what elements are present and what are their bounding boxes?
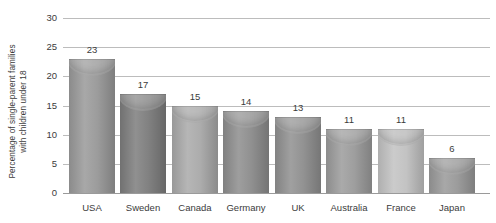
bar-top-edge [172, 106, 218, 107]
bar-group: 23USA [69, 18, 115, 193]
bar[interactable] [69, 59, 115, 193]
bar-top-edge [69, 59, 115, 60]
bar-value-label: 17 [120, 80, 166, 90]
bar-value-label: 11 [378, 115, 424, 125]
bar-group: 11Australia [326, 18, 372, 193]
bar[interactable] [378, 129, 424, 193]
bar-value-label: 23 [69, 45, 115, 55]
bar-top-edge [378, 129, 424, 130]
axis-baseline [63, 193, 490, 194]
y-axis-tick-label: 15 [5, 101, 57, 111]
y-axis-tick-label: 25 [5, 42, 57, 52]
bar-value-label: 6 [429, 144, 475, 154]
bar[interactable] [429, 158, 475, 193]
bar-top-edge [275, 117, 321, 118]
x-axis-category-label: Japan [419, 202, 485, 213]
bar-top-edge [326, 129, 372, 130]
bar-top-edge [120, 94, 166, 95]
y-axis-tick-label: 20 [5, 71, 57, 81]
y-axis-tick-label: 30 [5, 13, 57, 23]
y-axis-tick-label: 0 [5, 188, 57, 198]
plot-area: 051015202530 23USA17Sweden15Canada14Germ… [63, 18, 490, 193]
bar[interactable] [326, 129, 372, 193]
bar-top-edge [223, 111, 269, 112]
bar-value-label: 11 [326, 115, 372, 125]
bar-group: 6Japan [429, 18, 475, 193]
bar-group: 14Germany [223, 18, 269, 193]
bar-value-label: 13 [275, 103, 321, 113]
y-axis-tick-label: 10 [5, 130, 57, 140]
bar[interactable] [120, 94, 166, 193]
bar-value-label: 14 [223, 97, 269, 107]
bar[interactable] [275, 117, 321, 193]
bar[interactable] [172, 106, 218, 194]
bar-group: 11France [378, 18, 424, 193]
bar[interactable] [223, 111, 269, 193]
bar-group: 15Canada [172, 18, 218, 193]
bar-chart: Percentage of single-parent families wit… [0, 0, 496, 223]
bar-value-label: 15 [172, 92, 218, 102]
bar-fill [69, 59, 115, 193]
bar-series: 23USA17Sweden15Canada14Germany13UK11Aust… [63, 18, 490, 193]
y-axis-tick-label: 5 [5, 159, 57, 169]
bar-group: 17Sweden [120, 18, 166, 193]
bar-top-edge [429, 158, 475, 159]
bar-group: 13UK [275, 18, 321, 193]
